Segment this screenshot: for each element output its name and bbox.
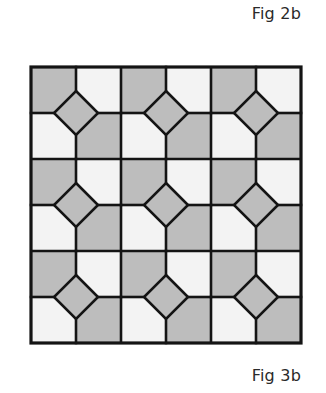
tile-pattern-diagram xyxy=(0,0,326,393)
figure-caption-bottom: Fig 3b xyxy=(252,368,301,384)
